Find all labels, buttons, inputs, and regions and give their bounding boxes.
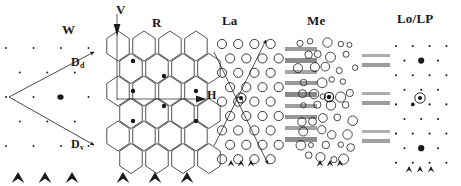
vector-label-dd-base: D: [71, 55, 80, 69]
vector-label-dd-subscript: d: [80, 61, 85, 70]
la-region-circle-lattice: [217, 39, 283, 163]
vector-label-dv-subscript: v: [80, 143, 84, 152]
axis-label-h: H: [207, 88, 217, 103]
me-region-disordered-circles: [293, 38, 357, 164]
region-label-lo-lp: Lo/LP: [397, 11, 433, 27]
region-label-me: Me: [307, 13, 325, 29]
me-to-lolp-gray-bars: [362, 54, 390, 143]
region-label-r: R: [152, 15, 162, 31]
r-region-hex-lattice: [107, 31, 220, 174]
lolp-region-diffraction-spots: [395, 45, 448, 164]
la-region-vectors: [214, 40, 268, 164]
axis-label-v: V: [116, 2, 126, 18]
vector-label-dv-base: D: [71, 137, 80, 151]
region-label-la: La: [222, 13, 238, 29]
vector-label-dv: Dv: [71, 137, 84, 152]
region-label-w: W: [62, 22, 75, 38]
phase-sequence-figure: W V R La Me Lo/LP H Dd Dv: [0, 0, 461, 186]
vector-label-dd: Dd: [71, 55, 85, 70]
